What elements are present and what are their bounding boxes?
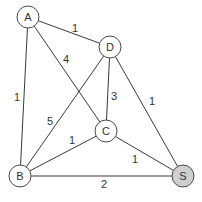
edge-weight-b-s: 2	[101, 178, 107, 190]
edge-weight-d-c: 3	[111, 90, 117, 102]
node-s: S	[172, 165, 194, 187]
weighted-graph-diagram: 141315112 ADCBS	[0, 0, 202, 202]
edge-weights-layer: 141315112	[14, 22, 155, 190]
edge-a-c	[34, 26, 100, 122]
edge-a-b	[21, 28, 28, 165]
edge-c-b	[30, 136, 97, 171]
edge-a-d	[38, 21, 99, 43]
edge-weight-a-d: 1	[72, 22, 78, 34]
nodes-layer: ADCBS	[9, 6, 194, 187]
node-label-a: A	[24, 11, 32, 23]
node-label-d: D	[106, 41, 114, 53]
node-b: B	[9, 165, 31, 187]
edge-weight-a-b: 1	[14, 91, 20, 103]
edge-weight-c-s: 1	[132, 153, 138, 165]
edge-weight-a-c: 4	[63, 53, 69, 65]
edge-d-s	[115, 57, 177, 167]
node-a: A	[17, 6, 39, 28]
edge-d-c	[107, 58, 110, 120]
edge-weight-d-b: 5	[47, 115, 53, 127]
edge-weight-c-b: 1	[69, 134, 75, 146]
node-d: D	[99, 36, 121, 58]
edge-c-s	[115, 137, 173, 171]
node-label-c: C	[102, 125, 110, 137]
edge-weight-d-s: 1	[149, 95, 155, 107]
node-c: C	[95, 120, 117, 142]
node-label-s: S	[179, 170, 186, 182]
node-label-b: B	[16, 170, 23, 182]
